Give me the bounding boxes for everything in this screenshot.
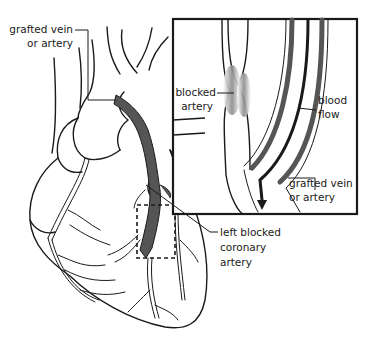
label-left-blocked-coronary: left blocked coronary artery bbox=[220, 226, 281, 268]
label-line: blocked bbox=[175, 86, 216, 98]
graft-vessel bbox=[114, 95, 161, 258]
label-line: grafted vein bbox=[9, 23, 73, 35]
label-line: artery bbox=[181, 100, 213, 112]
vessel-left-2 bbox=[79, 48, 81, 108]
vessel-top-3 bbox=[137, 28, 152, 67]
vessel-top-2 bbox=[122, 30, 137, 73]
label-line: left blocked bbox=[220, 226, 281, 238]
label-line: artery bbox=[220, 256, 252, 268]
label-line: grafted vein bbox=[289, 177, 353, 189]
label-line: or artery bbox=[27, 37, 73, 49]
vessel-left-1 bbox=[52, 58, 55, 153]
vessel-top-4 bbox=[149, 37, 168, 70]
bypass-diagram: grafted vein or artery blocked artery bl… bbox=[0, 0, 379, 349]
label-line: or artery bbox=[289, 191, 335, 203]
label-line: blood bbox=[318, 94, 347, 106]
label-grafted-vein-top: grafted vein or artery bbox=[9, 23, 73, 49]
vessel-top-1 bbox=[107, 27, 120, 74]
label-line: flow bbox=[318, 108, 340, 120]
label-line: coronary bbox=[220, 241, 266, 253]
